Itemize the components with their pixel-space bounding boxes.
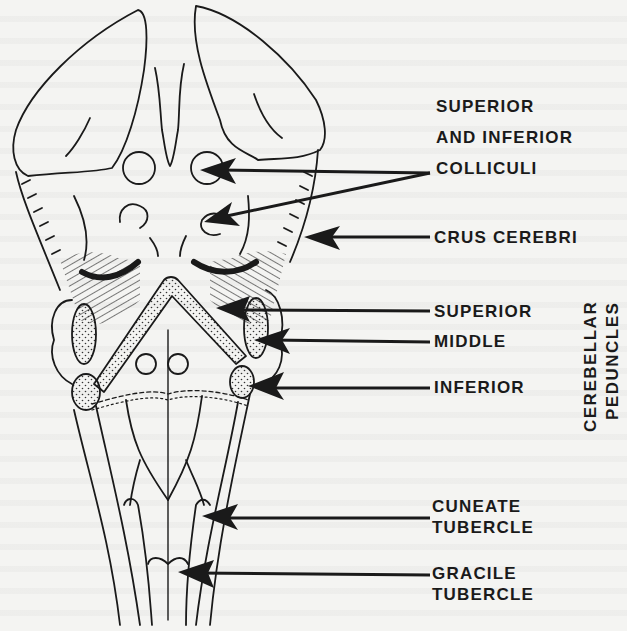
label-gracile-tubercle: GRACILE TUBERCLE xyxy=(432,563,534,605)
label-colliculi-line2: AND INFERIOR xyxy=(436,127,573,148)
left-inferior-colliculus xyxy=(120,204,148,228)
label-superior-peduncle: SUPERIOR xyxy=(434,301,532,322)
left-middle-peduncle xyxy=(72,304,96,364)
label-cuneate-tubercle: CUNEATE TUBERCLE xyxy=(432,496,534,538)
label-cuneate-line2: TUBERCLE xyxy=(432,517,534,538)
label-colliculi: SUPERIOR AND INFERIOR COLLICULI xyxy=(436,96,573,179)
label-cuneate-line1: CUNEATE xyxy=(432,496,534,517)
left-inferior-peduncle xyxy=(72,374,100,410)
label-peduncles: PEDUNCLES xyxy=(602,302,623,420)
label-middle-peduncle: MIDDLE xyxy=(434,331,506,352)
right-hemisphere xyxy=(195,6,325,160)
label-gracile-line2: TUBERCLE xyxy=(432,584,534,605)
left-superior-colliculus xyxy=(123,152,155,184)
pineal-region xyxy=(155,64,184,166)
label-gracile-line1: GRACILE xyxy=(432,563,534,584)
left-hemisphere xyxy=(13,10,146,176)
label-colliculi-line1: SUPERIOR xyxy=(436,96,573,117)
label-crus-cerebri: CRUS CEREBRI xyxy=(434,227,578,248)
right-middle-peduncle xyxy=(244,298,268,358)
label-colliculi-line3: COLLICULI xyxy=(436,158,573,179)
label-cerebellar: CEREBELLAR xyxy=(580,301,601,432)
label-inferior-peduncle: INFERIOR xyxy=(434,377,525,398)
